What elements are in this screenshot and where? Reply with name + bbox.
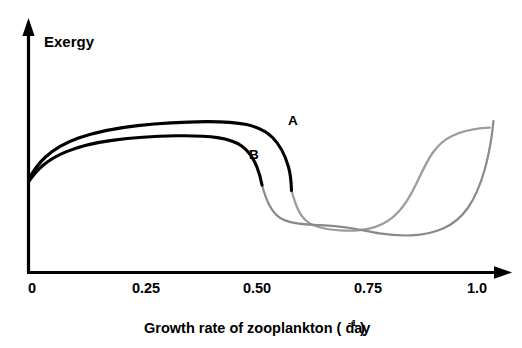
x-axis-title-superscript: -1 [348, 317, 357, 328]
x-axis-title-tail: ) [360, 320, 365, 336]
x-tick-label-0: 0 [28, 280, 36, 296]
series-b-label: B [249, 147, 259, 162]
y-axis-arrow-icon [22, 18, 34, 36]
figure-root: Exergy A B 0 0.25 0.50 0.75 1.0 Growth r… [0, 0, 522, 348]
series-b-continuation-curve [292, 128, 490, 231]
x-axis-title-main: Growth rate of zooplankton ( day [144, 320, 370, 336]
y-axis-label: Exergy [44, 33, 95, 50]
x-axis-arrow-icon [494, 266, 512, 279]
x-tick-label-4: 1.0 [467, 280, 487, 296]
axes-group [22, 18, 512, 279]
x-tick-label-1: 0.25 [132, 280, 160, 296]
ghost-curves-group [262, 121, 493, 236]
series-a-continuation-curve [262, 121, 493, 236]
x-axis-title: Growth rate of zooplankton ( day -1 ) [144, 317, 370, 336]
series-a-label: A [288, 113, 298, 128]
x-tick-label-3: 0.75 [354, 280, 382, 296]
x-axis-tick-labels: 0 0.25 0.50 0.75 1.0 [28, 280, 487, 296]
chart-canvas: Exergy A B 0 0.25 0.50 0.75 1.0 Growth r… [0, 0, 522, 348]
x-tick-label-2: 0.50 [243, 280, 271, 296]
